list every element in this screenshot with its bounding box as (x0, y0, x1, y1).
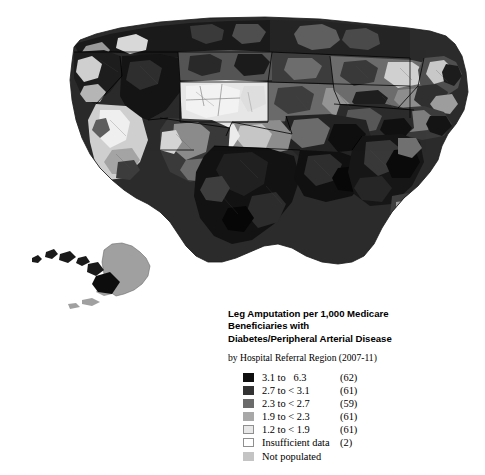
us-map-svg (0, 0, 485, 320)
legend-row-inner: 1.9 to < 2.3(61) (228, 411, 478, 422)
legend-row-inner: Insufficient data(2) (228, 437, 478, 448)
legend-count: (59) (340, 398, 357, 409)
legend-row: 2.3 to < 2.7(59) (228, 397, 478, 410)
map-legend: Leg Amputation per 1,000 Medicare Benefi… (228, 308, 478, 463)
legend-row: 1.9 to < 2.3(61) (228, 410, 478, 423)
legend-swatch (243, 452, 254, 461)
legend-row-inner: 2.3 to < 2.7(59) (228, 398, 478, 409)
legend-count: (61) (340, 424, 357, 435)
legend-swatch (243, 412, 254, 421)
legend-label: Not populated (262, 451, 321, 462)
legend-title-line-1: Leg Amputation per 1,000 Medicare (228, 308, 478, 320)
legend-row: 1.2 to < 1.9(61) (228, 423, 478, 436)
legend-label: 2.7 to < 3.1 (262, 385, 310, 396)
legend-label: 3.1 to 6.3 (262, 372, 306, 383)
choropleth-map (0, 0, 485, 320)
legend-swatch (243, 373, 254, 382)
legend-count: (62) (340, 372, 357, 383)
legend-count: (2) (340, 437, 352, 448)
legend-swatch (243, 438, 254, 447)
legend-count: (61) (340, 385, 357, 396)
legend-label: 1.9 to < 2.3 (262, 411, 310, 422)
legend-subtitle: by Hospital Referral Region (2007-11) (228, 345, 478, 363)
legend-row-inner: 2.7 to < 3.1(61) (228, 385, 478, 396)
legend-entries: 3.1 to 6.3(62)2.7 to < 3.1(61)2.3 to < 2… (228, 371, 478, 463)
legend-title-line-3: Diabetes/Peripheral Arterial Disease (228, 333, 478, 345)
legend-row-inner: 1.2 to < 1.9(61) (228, 424, 478, 435)
legend-swatch (243, 425, 254, 434)
legend-swatch (243, 386, 254, 395)
legend-swatch (243, 399, 254, 408)
legend-title: Leg Amputation per 1,000 Medicare Benefi… (228, 308, 478, 345)
legend-label: Insufficient data (262, 437, 330, 448)
legend-title-line-2: Beneficiaries with (228, 320, 478, 332)
legend-row-inner: 3.1 to 6.3(62) (228, 372, 478, 383)
legend-row: Insufficient data(2) (228, 436, 478, 449)
map-page: Leg Amputation per 1,000 Medicare Benefi… (0, 0, 485, 475)
legend-row: 3.1 to 6.3(62) (228, 371, 478, 384)
legend-row: Not populated (228, 449, 478, 462)
legend-row-inner: Not populated (228, 451, 478, 462)
legend-label: 2.3 to < 2.7 (262, 398, 310, 409)
legend-count: (61) (340, 411, 357, 422)
legend-row: 2.7 to < 3.1(61) (228, 384, 478, 397)
legend-label: 1.2 to < 1.9 (262, 424, 310, 435)
